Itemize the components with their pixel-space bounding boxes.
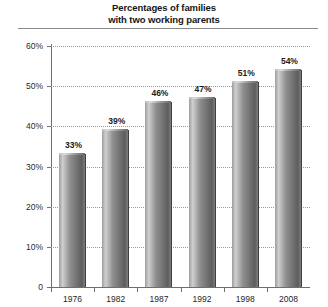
plot-area: 33%39%46%47%51%54% [51, 46, 310, 287]
bar-value-label: 54% [281, 56, 298, 66]
bar-chart: Percentages of families with two working… [0, 0, 328, 307]
y-axis-tick [47, 126, 51, 127]
bar-top-cap [145, 101, 171, 103]
bar-value-label: 46% [151, 88, 168, 98]
x-axis-label: 1992 [193, 294, 212, 304]
x-axis-label: 1987 [149, 294, 168, 304]
x-axis-tick-origin [51, 287, 52, 292]
gridline [51, 46, 310, 47]
gridline [51, 207, 310, 208]
gridline [51, 247, 310, 248]
gridline [51, 86, 310, 87]
y-axis-tick [47, 247, 51, 248]
bar-value-label: 47% [195, 84, 212, 94]
bar [102, 130, 129, 287]
bar-top-cap [275, 69, 301, 71]
x-axis-tick [94, 287, 95, 292]
x-axis-tick [181, 287, 182, 292]
y-axis-label: 20% [26, 202, 43, 212]
x-axis-label: 1998 [236, 294, 255, 304]
y-axis-label: 60% [26, 41, 43, 51]
y-axis-label: 10% [26, 242, 43, 252]
y-axis-label: 0 [38, 282, 43, 292]
chart-title-line-1: Percentages of families [0, 2, 328, 14]
gridline [51, 167, 310, 168]
chart-title-line-2: with two working parents [0, 14, 328, 26]
x-axis-tick [267, 287, 268, 292]
x-axis-label: 1982 [106, 294, 125, 304]
x-axis-tick [224, 287, 225, 292]
y-axis-tick [47, 167, 51, 168]
bar-top-cap [59, 153, 85, 155]
x-axis-tick [137, 287, 138, 292]
bar [275, 70, 302, 287]
y-axis-label: 30% [26, 162, 43, 172]
x-axis-line [48, 287, 310, 288]
bar [59, 154, 86, 287]
y-axis-tick [47, 86, 51, 87]
x-axis-label: 1976 [63, 294, 82, 304]
bar-top-cap [232, 81, 258, 83]
gridline [51, 126, 310, 127]
bar-value-label: 33% [65, 140, 82, 150]
bar [232, 82, 259, 287]
chart-title: Percentages of families with two working… [0, 2, 328, 25]
bar-value-label: 39% [108, 116, 125, 126]
y-axis-tick [47, 207, 51, 208]
bar [145, 102, 172, 287]
bar [189, 98, 216, 287]
y-axis-label: 40% [26, 121, 43, 131]
title-divider [18, 28, 318, 29]
bar-top-cap [189, 97, 215, 99]
bar-top-cap [102, 129, 128, 131]
bar-value-label: 51% [238, 68, 255, 78]
y-axis-tick [47, 46, 51, 47]
x-axis-label: 2008 [279, 294, 298, 304]
y-axis-label: 50% [26, 81, 43, 91]
